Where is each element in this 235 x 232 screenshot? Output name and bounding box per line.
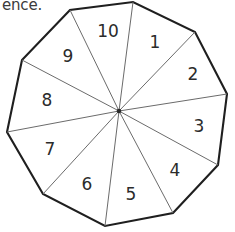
sector-label-5: 5: [126, 184, 137, 204]
sector-label-6: 6: [82, 174, 93, 194]
center-point: [117, 109, 122, 114]
sector-label-10: 10: [97, 21, 119, 41]
sector-label-7: 7: [45, 139, 56, 159]
sector-label-1: 1: [150, 32, 161, 52]
sector-label-4: 4: [170, 160, 181, 180]
decagon-figure: ence. 12345678910: [0, 0, 235, 232]
sector-label-9: 9: [63, 46, 74, 66]
sector-label-8: 8: [42, 90, 53, 110]
decagon-diagram-svg: 12345678910: [0, 0, 235, 232]
sector-label-2: 2: [188, 64, 199, 84]
sector-label-3: 3: [194, 116, 205, 136]
